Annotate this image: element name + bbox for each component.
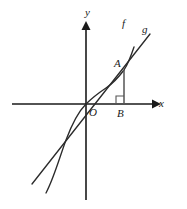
curve-f-label: f bbox=[122, 18, 125, 29]
curve-g-label: g bbox=[142, 24, 148, 35]
point-b-label: B bbox=[117, 108, 124, 119]
right-angle-marker-icon bbox=[116, 96, 124, 104]
origin-label: O bbox=[89, 107, 97, 118]
point-a-label: A bbox=[114, 58, 121, 69]
math-figure: y x f g A O B bbox=[0, 0, 187, 209]
y-axis-arrow-icon bbox=[82, 21, 91, 30]
x-axis-label: x bbox=[159, 98, 164, 109]
y-axis-label: y bbox=[85, 7, 90, 18]
